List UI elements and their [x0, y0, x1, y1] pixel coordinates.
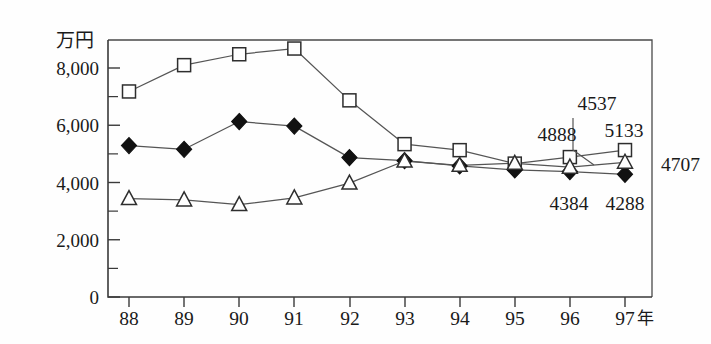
marker-triangle	[177, 192, 192, 206]
y-axis-unit-label: 万円	[56, 30, 94, 51]
xtick-label-94: 94	[450, 308, 470, 329]
marker-square	[233, 48, 246, 61]
annotation-5133: 5133	[605, 120, 644, 141]
ytick-label-0: 0	[90, 287, 100, 308]
marker-triangle	[342, 175, 357, 189]
marker-square	[343, 94, 356, 107]
ytick-label-4000: 4,000	[56, 173, 99, 194]
marker-triangle	[122, 191, 137, 205]
ytick-label-8000: 8,000	[56, 58, 99, 79]
annotation-4288: 4288	[606, 193, 645, 214]
annotation-4384: 4384	[550, 193, 589, 214]
markers-square	[123, 42, 632, 170]
xtick-label-93: 93	[395, 308, 415, 329]
marker-diamond	[122, 138, 137, 154]
annotation-4537: 4537	[578, 93, 617, 114]
marker-square	[123, 85, 136, 98]
x-axis-tick-labels: 88 89 90 91 92 93 94 95 96 97	[119, 308, 635, 329]
x-axis-unit-label: 年	[637, 309, 654, 328]
marker-square	[178, 59, 191, 72]
xtick-label-95: 95	[505, 308, 525, 329]
series-square	[129, 49, 625, 164]
xtick-label-88: 88	[119, 308, 139, 329]
line-chart: 万円 年 0 2,000 4,000 6,000 8,000 88 89 90 …	[0, 0, 711, 344]
ytick-label-2000: 2,000	[56, 230, 99, 251]
xtick-label-91: 91	[284, 308, 304, 329]
xtick-label-92: 92	[340, 308, 360, 329]
marker-diamond	[232, 114, 247, 130]
marker-square	[398, 138, 411, 151]
y-axis-tick-labels: 0 2,000 4,000 6,000 8,000	[56, 58, 99, 308]
ytick-label-6000: 6,000	[56, 115, 99, 136]
xtick-label-90: 90	[229, 308, 249, 329]
marker-diamond	[287, 118, 302, 134]
annotation-4707: 4707	[661, 154, 700, 175]
chart-page: 万円 年 0 2,000 4,000 6,000 8,000 88 89 90 …	[0, 0, 711, 344]
xtick-label-97: 97	[615, 308, 635, 329]
marker-square	[288, 42, 301, 55]
marker-diamond	[342, 150, 357, 166]
series-line-square	[129, 49, 625, 164]
xtick-label-89: 89	[174, 308, 194, 329]
annotation-4888: 4888	[538, 124, 577, 145]
x-axis-ticks	[129, 297, 625, 307]
marker-square	[453, 144, 466, 157]
xtick-label-96: 96	[560, 308, 580, 329]
y-axis-major-ticks	[108, 68, 120, 297]
marker-diamond	[177, 141, 192, 157]
